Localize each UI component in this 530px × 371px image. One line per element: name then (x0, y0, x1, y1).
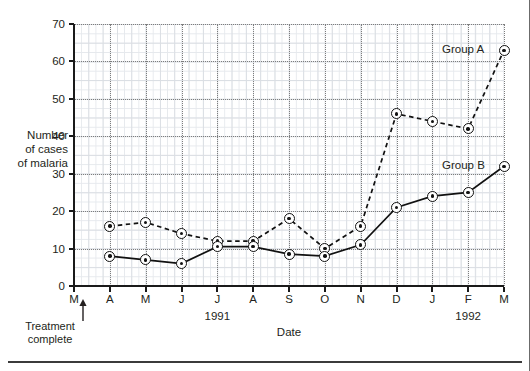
year-label-1992: 1992 (455, 310, 481, 322)
treatment-note-line-2: complete (14, 333, 86, 346)
x-tick-label: M (141, 293, 151, 305)
x-tick (503, 287, 505, 292)
data-point-marker (391, 202, 402, 213)
x-tick (73, 287, 75, 292)
x-tick (252, 287, 254, 292)
series-label-group-a: Group A (442, 43, 484, 55)
x-tick-label: A (249, 293, 257, 305)
treatment-complete-note: Treatment complete (14, 320, 86, 346)
data-point-marker (463, 123, 474, 134)
y-tick-label: 40 (52, 130, 65, 142)
x-tick (396, 287, 398, 292)
data-point-marker (284, 213, 295, 224)
x-tick-label: J (429, 293, 435, 305)
data-point-marker (499, 45, 510, 56)
x-tick-label: J (179, 293, 185, 305)
x-tick (431, 287, 433, 292)
x-tick-label: N (357, 293, 365, 305)
x-tick (109, 287, 111, 292)
x-tick (216, 287, 218, 292)
data-point-marker (140, 217, 151, 228)
series-line (110, 50, 504, 248)
data-point-marker (355, 221, 366, 232)
x-tick-label: O (320, 293, 329, 305)
data-point-marker (248, 241, 259, 252)
y-tick-label: 0 (59, 280, 65, 292)
chart-page: Number of cases of malaria 0102030405060… (0, 0, 530, 371)
treatment-arrow-icon (78, 299, 88, 321)
y-tick-label: 30 (52, 168, 65, 180)
data-point-marker (104, 221, 115, 232)
data-point-marker (427, 191, 438, 202)
x-tick (288, 287, 290, 292)
x-tick-label: S (285, 293, 293, 305)
treatment-note-line-1: Treatment (14, 320, 86, 333)
x-tick (360, 287, 362, 292)
x-tick (181, 287, 183, 292)
data-point-marker (104, 251, 115, 262)
page-bottom-rule (8, 361, 522, 363)
y-tick-label: 60 (52, 55, 65, 67)
data-point-marker (463, 187, 474, 198)
gridline-v (504, 24, 505, 286)
series-label-group-b: Group B (442, 159, 485, 171)
series-lines (74, 24, 504, 286)
x-tick-label: A (106, 293, 114, 305)
data-point-marker (284, 249, 295, 260)
data-point-marker (427, 116, 438, 127)
y-axis-title-line-2: of cases (6, 142, 68, 156)
data-point-marker (212, 241, 223, 252)
year-label-1991: 1991 (205, 310, 231, 322)
plot-area: 010203040506070 MAMJJASONDJFM Group A Gr… (74, 24, 504, 286)
y-tick-label: 70 (52, 18, 65, 30)
data-point-marker (176, 258, 187, 269)
x-tick (467, 287, 469, 292)
x-tick-label: M (499, 293, 509, 305)
data-point-marker (499, 161, 510, 172)
y-tick-label: 10 (52, 243, 65, 255)
x-tick-label: D (392, 293, 400, 305)
x-tick-label: F (465, 293, 472, 305)
data-point-marker (319, 251, 330, 262)
y-tick-label: 20 (52, 205, 65, 217)
y-tick-label: 50 (52, 93, 65, 105)
x-tick (324, 287, 326, 292)
x-tick-label: J (214, 293, 220, 305)
series-line (110, 166, 504, 263)
x-tick (145, 287, 147, 292)
x-axis-title: Date (277, 326, 301, 338)
